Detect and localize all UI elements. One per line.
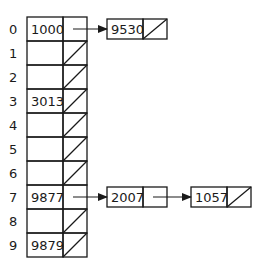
key-cell — [27, 161, 63, 185]
null-pointer-icon — [63, 233, 87, 257]
null-pointer-icon — [143, 19, 167, 39]
table-row: 1 — [9, 41, 87, 65]
null-pointer-icon — [63, 65, 87, 89]
slot-key: 9879 — [31, 238, 64, 253]
table-row: 4 — [9, 113, 87, 137]
slot-index: 6 — [9, 166, 17, 181]
null-pointer-icon — [63, 41, 87, 65]
list-node: 9530 — [107, 19, 167, 39]
table-row: 2 — [9, 65, 87, 89]
slot-index: 2 — [9, 70, 17, 85]
slot-index: 0 — [9, 22, 17, 37]
chain-7: 20071057 — [73, 187, 251, 207]
table-row: 5 — [9, 137, 87, 161]
table-row: 6 — [9, 161, 87, 185]
key-cell — [27, 41, 63, 65]
slot-index: 8 — [9, 214, 17, 229]
slot-index: 1 — [9, 46, 17, 61]
key-cell — [27, 137, 63, 161]
slot-key: 1000 — [31, 22, 64, 37]
key-cell — [27, 65, 63, 89]
table-row: 99879 — [9, 233, 87, 257]
key-cell — [27, 209, 63, 233]
node-key: 2007 — [111, 190, 144, 205]
slot-index: 9 — [9, 238, 17, 253]
null-pointer-icon — [63, 161, 87, 185]
slot-key: 9877 — [31, 190, 64, 205]
table-row: 33013 — [9, 89, 87, 113]
slot-index: 3 — [9, 94, 17, 109]
key-cell — [27, 113, 63, 137]
node-key: 9530 — [111, 22, 144, 37]
slot-index: 4 — [9, 118, 17, 133]
null-pointer-icon — [227, 187, 251, 207]
chains: 953020071057 — [73, 19, 251, 207]
null-pointer-icon — [63, 113, 87, 137]
slot-index: 5 — [9, 142, 17, 157]
null-pointer-icon — [63, 137, 87, 161]
slot-key: 3013 — [31, 94, 64, 109]
hash-table-diagram: 01000123301345679877899879 953020071057 — [0, 0, 258, 268]
null-pointer-icon — [63, 89, 87, 113]
list-node: 1057 — [191, 187, 251, 207]
table-row: 8 — [9, 209, 87, 233]
slot-index: 7 — [9, 190, 17, 205]
hash-table: 01000123301345679877899879 — [9, 17, 87, 257]
node-key: 1057 — [195, 190, 228, 205]
null-pointer-icon — [63, 209, 87, 233]
